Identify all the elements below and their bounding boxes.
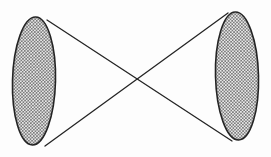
figure-container: Bowtie / hourglass diagram: a left verti…	[0, 0, 271, 157]
diagram-canvas	[0, 0, 271, 157]
